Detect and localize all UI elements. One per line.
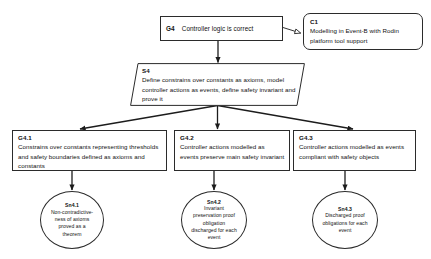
connector-g4-to-c1 xyxy=(283,28,301,34)
node-goal-g41-text: Constrains over constants representing t… xyxy=(18,142,162,170)
node-context-c1-text: Modelling in Event-B with Rodin platform… xyxy=(310,26,417,45)
node-strategy-s4-text: Define constrains over constants as axio… xyxy=(142,75,297,103)
gsn-diagram-canvas: G4 Controller logic is correct C1 Modell… xyxy=(0,0,431,259)
node-goal-g43-id: G4.3 xyxy=(299,134,411,142)
node-solution-sn41-text: Non-contradictive-ness of axioms proved … xyxy=(49,209,95,238)
node-solution-sn43-text: Discharged proof obligations for each ev… xyxy=(321,212,369,234)
node-solution-sn42-text: Invariant preservation proof obligation … xyxy=(190,205,238,241)
node-context-c1[interactable]: C1 Modelling in Event-B with Rodin platf… xyxy=(303,13,423,50)
node-solution-sn41[interactable]: Sn4.1 Non-contradictive-ness of axioms p… xyxy=(40,191,104,249)
connector-s4-to-g43 xyxy=(218,106,354,130)
connector-s4-to-g41 xyxy=(80,106,218,130)
node-strategy-s4[interactable]: S4 Define constrains over constants as a… xyxy=(130,63,305,106)
node-goal-g4[interactable]: G4 Controller logic is correct xyxy=(160,16,283,41)
node-goal-g42[interactable]: G4.2 Controller actions modelled as even… xyxy=(174,130,290,171)
node-strategy-s4-body: S4 Define constrains over constants as a… xyxy=(130,63,305,106)
node-goal-g42-text: Controller actions modelled as events pr… xyxy=(180,142,285,161)
node-goal-g43[interactable]: G4.3 Controller actions modelled as even… xyxy=(293,130,416,171)
node-solution-sn43[interactable]: Sn4.3 Discharged proof obligations for e… xyxy=(312,191,378,249)
node-goal-g4-id: G4 xyxy=(166,25,175,34)
node-goal-g41-id: G4.1 xyxy=(18,134,162,142)
node-strategy-s4-id: S4 xyxy=(142,67,297,75)
node-goal-g4-text: Controller logic is correct xyxy=(182,24,254,34)
node-goal-g43-text: Controller actions modelled as events co… xyxy=(299,142,411,161)
node-context-c1-id: C1 xyxy=(310,18,417,26)
node-solution-sn42[interactable]: Sn4.2 Invariant preservation proof oblig… xyxy=(181,191,247,249)
node-goal-g41[interactable]: G4.1 Constrains over constants represent… xyxy=(12,130,167,171)
node-solution-sn41-id: Sn4.1 xyxy=(65,202,79,209)
node-goal-g42-id: G4.2 xyxy=(180,134,285,142)
node-solution-sn42-id: Sn4.2 xyxy=(207,199,221,206)
node-solution-sn43-id: Sn4.3 xyxy=(338,206,352,213)
